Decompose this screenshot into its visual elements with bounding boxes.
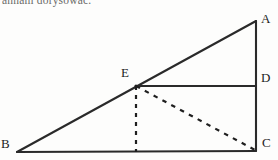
scanned-page: annam dorysować. A B C D E [0, 0, 278, 160]
vertex-label-E: E [121, 66, 129, 79]
vertex-label-D: D [261, 71, 270, 84]
vertex-label-A: A [261, 12, 270, 25]
geometry-figure [0, 0, 278, 160]
vertex-label-C: C [262, 136, 271, 149]
vertex-label-B: B [1, 137, 10, 150]
segment-EC-dashed [136, 86, 255, 150]
vertex-point-E [134, 84, 137, 87]
